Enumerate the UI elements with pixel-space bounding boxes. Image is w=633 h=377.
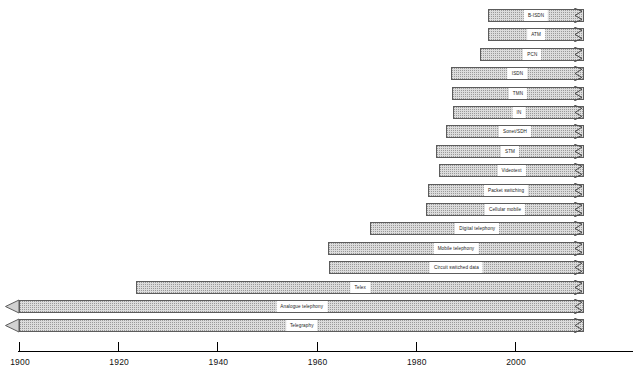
axis-tick-label: 1940 — [209, 357, 229, 367]
axis-tick-label: 1920 — [109, 357, 129, 367]
continues-before-range-arrow-icon — [5, 317, 21, 334]
axis-line — [18, 351, 633, 352]
continuation-break-icon — [573, 8, 585, 23]
timeline-bar: Digital telephony — [370, 222, 584, 235]
continuation-break-icon — [573, 144, 585, 159]
timeline-bar: ATM — [488, 28, 585, 41]
axis-tick-label: 2000 — [506, 357, 526, 367]
timeline-bar-label: PCN — [523, 49, 541, 60]
timeline-bar-label: Cellular mobile — [485, 204, 525, 215]
axis-tick — [416, 342, 417, 351]
continuation-break-icon — [573, 47, 585, 62]
axis-tick — [317, 342, 318, 351]
continuation-break-icon — [573, 66, 585, 81]
continuation-break-icon — [573, 202, 585, 217]
timeline-bar: Telex — [136, 281, 584, 294]
timeline-bar: Mobile telephony — [328, 242, 585, 255]
timeline-bar: Packet switching — [428, 184, 585, 197]
continuation-break-icon — [573, 105, 585, 120]
timeline-bar-label: Digital telephony — [455, 223, 499, 234]
axis-tick-label: 1980 — [407, 357, 427, 367]
timeline-bar: Telegraphy — [19, 319, 584, 332]
timeline-bar-label: B-ISDN — [524, 10, 548, 21]
continues-before-range-arrow-icon — [5, 298, 21, 315]
timeline-bar-label: IN — [513, 107, 526, 118]
timeline-bar-label: Circuit switched data — [430, 262, 483, 273]
continuation-break-icon — [573, 183, 585, 198]
timeline-bar-label: Telegraphy — [286, 320, 318, 331]
continuation-break-icon — [573, 280, 585, 295]
timeline-bar-label: Videotext — [497, 165, 525, 176]
continuation-break-icon — [573, 318, 585, 333]
continuation-break-icon — [573, 241, 585, 256]
timeline-bar: ISDN — [451, 67, 585, 80]
axis-tick — [19, 342, 20, 351]
timeline-bar: Circuit switched data — [329, 261, 585, 274]
timeline-bar: Sonet/SDH — [446, 125, 585, 138]
axis-tick — [118, 342, 119, 351]
timeline-bar-label: ISDN — [508, 68, 527, 79]
timeline-bar: Analogue telephony — [19, 300, 584, 313]
timeline-bar: STM — [436, 145, 585, 158]
axis-tick-label: 1960 — [308, 357, 328, 367]
timeline-bar: Videotext — [439, 164, 585, 177]
timeline-bar: TMN — [452, 87, 585, 100]
timeline-bar-label: Packet switching — [484, 185, 528, 196]
timeline-bar-label: Analogue telephony — [276, 301, 327, 312]
timeline-bar-label: Mobile telephony — [434, 243, 479, 254]
continuation-break-icon — [573, 299, 585, 314]
continuation-break-icon — [573, 221, 585, 236]
timeline-bar-label: TMN — [509, 88, 527, 99]
axis-tick — [217, 342, 218, 351]
timeline-bar: PCN — [480, 48, 584, 61]
continuation-break-icon — [573, 124, 585, 139]
timeline-bar-label: Sonet/SDH — [499, 126, 531, 137]
axis-tick-label: 1900 — [10, 357, 30, 367]
axis-tick — [515, 342, 516, 351]
continuation-break-icon — [573, 27, 585, 42]
timeline-bar-label: STM — [501, 146, 519, 157]
continuation-break-icon — [573, 163, 585, 178]
timeline-bar: Cellular mobile — [426, 203, 585, 216]
continuation-break-icon — [573, 86, 585, 101]
timeline-bar-label: Telex — [351, 282, 370, 293]
timeline-bar-label: ATM — [527, 29, 545, 40]
timeline-bar: IN — [453, 106, 584, 119]
timeline-bar: B-ISDN — [488, 9, 585, 22]
continuation-break-icon — [573, 260, 585, 275]
